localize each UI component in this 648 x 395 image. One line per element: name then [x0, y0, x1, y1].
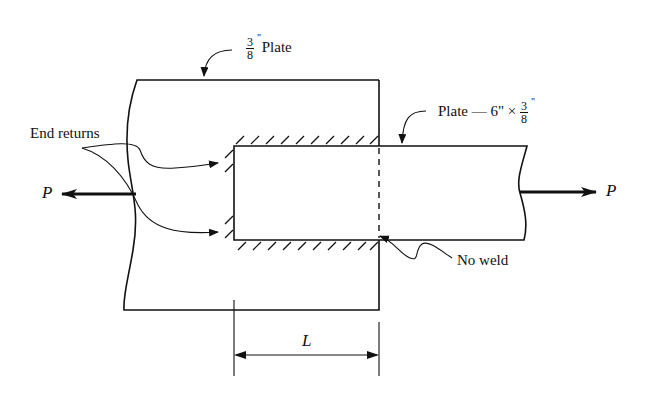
weld-joint-diagram [0, 0, 648, 395]
load-label-right: P [606, 181, 616, 201]
load-label-left: P [42, 183, 52, 203]
weld-hatch-bottom [238, 242, 378, 250]
splice-plate-outline [379, 146, 527, 240]
no-weld-label: No weld [457, 252, 508, 269]
weld-hatch-end-returns [225, 150, 233, 238]
side-plate-leader [402, 111, 426, 143]
weld-hatch-top [236, 136, 378, 144]
side-plate-label: Plate — 6" × 3"8 [438, 100, 532, 125]
dimension-label: L [302, 331, 311, 351]
end-returns-leader-top [82, 144, 218, 169]
end-returns-leader-bottom [82, 148, 218, 233]
top-plate-label: 3"8 Plate [246, 36, 292, 61]
top-plate-leader [204, 50, 232, 76]
end-returns-label: End returns [30, 125, 100, 142]
gusset-plate-outline [124, 80, 379, 310]
